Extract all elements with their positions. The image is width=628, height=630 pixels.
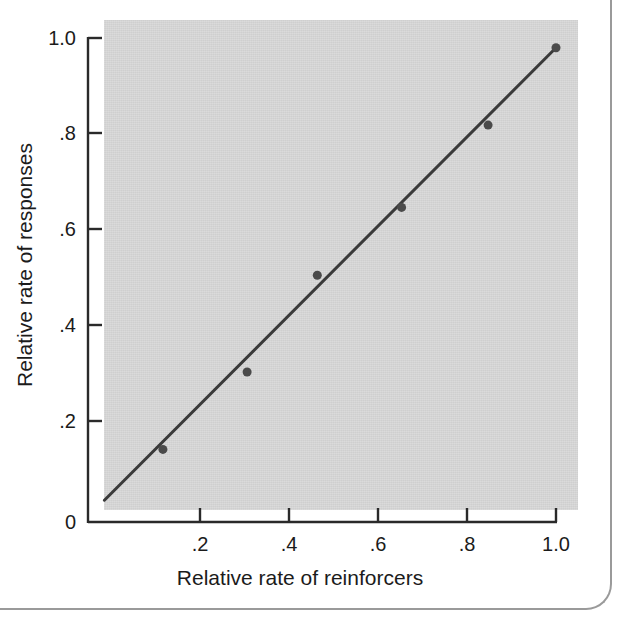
y-axis-title: Relative rate of responses [10,20,40,510]
origin-tick-label: 0 [28,512,76,532]
scatter-chart: 1.0 .8 .6 .4 .2 0 .2 .4 .6 .8 1.0 Relati… [0,0,628,630]
matching-fit-line [104,48,556,501]
data-point [397,203,406,212]
y-axis [88,37,102,523]
x-tick-label-0.4: .4 [259,534,319,554]
x-tick-label-0.6: .6 [348,534,408,554]
data-point [552,43,561,52]
figure-root: 1.0 .8 .6 .4 .2 0 .2 .4 .6 .8 1.0 Relati… [0,0,628,630]
data-point [313,271,322,280]
data-point [158,445,167,454]
x-tick-label-0.2: .2 [170,534,230,554]
data-point [484,121,493,130]
x-axis-title: Relative rate of reinforcers [0,566,600,590]
x-tick-label-0.8: .8 [437,534,497,554]
data-point [243,368,252,377]
x-axis [88,508,557,522]
x-tick-label-1.0: 1.0 [526,534,586,554]
